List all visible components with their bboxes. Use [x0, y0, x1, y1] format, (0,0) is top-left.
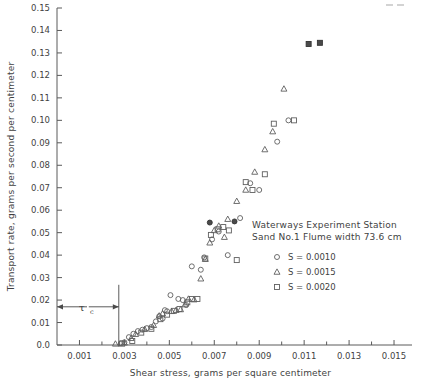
y-tick-label: 0.10 — [31, 115, 50, 125]
tau-label: τ — [79, 302, 85, 313]
series-triangle — [112, 86, 286, 346]
data-point-circle — [207, 220, 212, 225]
legend-item-label: S = 0.0020 — [288, 282, 336, 292]
y-axis-title: Transport rate, grams per second per cen… — [6, 62, 16, 293]
x-tick-label: 0.013 — [337, 351, 361, 361]
scatter-chart-figure: 0.0010.0030.0050.0070.0090.0110.0130.015… — [0, 0, 424, 387]
legend-header-line2: Sand No.1 Flume width 73.6 cm — [252, 232, 402, 242]
series-square — [120, 40, 323, 346]
data-point-circle — [232, 219, 237, 224]
y-tick-label: 0.15 — [31, 3, 50, 13]
y-tick-label: 0.06 — [31, 205, 50, 215]
data-point-triangle — [198, 276, 204, 281]
data-point-square — [250, 187, 255, 192]
y-tick-label: 0.05 — [31, 228, 50, 238]
data-point-square — [292, 118, 297, 123]
legend: Waterways Experiment StationSand No.1 Fl… — [252, 220, 402, 292]
y-tick-label: 0.03 — [31, 273, 50, 283]
y-tick-label: 0.12 — [31, 70, 50, 80]
y-tick-label: 0.08 — [31, 160, 50, 170]
plot-canvas: 0.0010.0030.0050.0070.0090.0110.0130.015… — [0, 0, 424, 387]
tau-arrowhead-right — [113, 304, 119, 309]
axes — [57, 8, 412, 345]
axis-lines — [57, 8, 412, 345]
data-point-triangle — [262, 146, 268, 151]
legend-item-label: S = 0.0015 — [288, 267, 336, 277]
y-tick-label: 0.09 — [31, 138, 50, 148]
data-point-triangle — [270, 128, 276, 133]
data-point-triangle — [243, 187, 249, 192]
y-tick-label: 0.04 — [31, 250, 50, 260]
x-tick-label: 0.003 — [112, 351, 136, 361]
legend-item-circle: S = 0.0010 — [275, 252, 336, 262]
y-tick-label: 0.11 — [31, 93, 50, 103]
data-point-triangle — [252, 169, 258, 174]
tau-c-annotation: τc — [57, 285, 119, 347]
y-tick-label: 0.07 — [31, 183, 50, 193]
data-point-square — [306, 41, 311, 46]
legend-item-label: S = 0.0010 — [288, 252, 336, 262]
x-tick-label: 0.001 — [67, 351, 91, 361]
data-point-square — [275, 285, 280, 290]
y-tick-label: 0.0 — [36, 340, 50, 350]
x-axis-title: Shear stress, grams per square centimete… — [130, 368, 332, 378]
y-tick-label: 0.01 — [31, 318, 50, 328]
x-tick-label: 0.009 — [247, 351, 271, 361]
data-point-square — [226, 228, 231, 233]
data-point-triangle — [225, 216, 231, 221]
legend-item-triangle: S = 0.0015 — [274, 267, 336, 277]
legend-item-square: S = 0.0020 — [275, 282, 336, 292]
data-points — [112, 40, 322, 346]
data-point-circle — [189, 264, 194, 269]
x-tick-label: 0.005 — [157, 351, 181, 361]
data-point-circle — [168, 293, 173, 298]
x-tick-label: 0.011 — [292, 351, 316, 361]
data-point-circle — [198, 267, 203, 272]
data-point-circle — [225, 253, 230, 258]
data-point-triangle — [281, 86, 287, 91]
y-tick-label: 0.13 — [31, 48, 50, 58]
data-point-circle — [257, 187, 262, 192]
data-point-circle — [238, 216, 243, 221]
legend-header-line1: Waterways Experiment Station — [252, 220, 397, 230]
y-tick-label: 0.02 — [31, 295, 50, 305]
tau-subscript: c — [90, 308, 94, 316]
data-point-triangle — [234, 198, 240, 203]
x-tick-label: 0.007 — [202, 351, 226, 361]
data-point-circle — [275, 139, 280, 144]
data-point-triangle — [274, 269, 280, 274]
tau-arrowhead-left — [57, 304, 63, 309]
data-point-square — [271, 121, 276, 126]
data-point-circle — [275, 255, 280, 260]
data-point-square — [234, 258, 239, 263]
data-point-circle — [286, 118, 291, 123]
data-point-square — [317, 40, 322, 45]
y-tick-label: 0.14 — [31, 25, 50, 35]
x-tick-label: 0.015 — [382, 351, 406, 361]
data-point-square — [262, 172, 267, 177]
data-point-triangle — [221, 234, 227, 239]
